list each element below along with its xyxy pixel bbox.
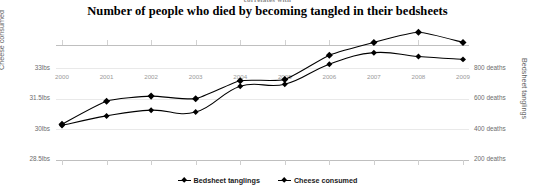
- series-line: [62, 32, 463, 124]
- data-point-marker[interactable]: [371, 50, 377, 56]
- x-axis-tick: [107, 160, 108, 165]
- data-point-marker[interactable]: [193, 109, 199, 115]
- x-axis-tick: [240, 160, 241, 165]
- data-point-marker[interactable]: [148, 107, 154, 113]
- data-point-marker[interactable]: [326, 52, 333, 59]
- legend-item-cheese-consumed[interactable]: Cheese consumed: [278, 176, 358, 185]
- x-axis-tick: [329, 160, 330, 165]
- x-axis-tick: [374, 160, 375, 165]
- data-point-marker[interactable]: [192, 95, 199, 102]
- data-point-marker[interactable]: [282, 81, 288, 87]
- data-point-marker[interactable]: [103, 98, 110, 105]
- y-axis-left-tick-label: 33lbs: [10, 64, 50, 71]
- x-axis-tick: [151, 160, 152, 165]
- diamond-marker-icon: [278, 177, 291, 184]
- data-point-marker[interactable]: [237, 83, 243, 89]
- data-point-marker[interactable]: [104, 113, 110, 119]
- plot-area: 2000200120022003200420052006200720082009…: [56, 45, 469, 160]
- series-line: [62, 52, 463, 125]
- diamond-marker-icon: [178, 177, 191, 184]
- x-axis-tick: [285, 160, 286, 165]
- y-axis-left-tick-label: 30lbs: [10, 125, 50, 132]
- chart-title: Number of people who died by becoming ta…: [0, 4, 535, 19]
- data-point-marker[interactable]: [148, 93, 155, 100]
- x-axis-tick: [196, 160, 197, 165]
- chart-container: correlates with Number of people who die…: [0, 0, 535, 191]
- x-axis-tick: [62, 160, 63, 165]
- chart-supertitle: correlates with: [0, 0, 535, 2]
- data-point-marker[interactable]: [415, 29, 422, 36]
- y-axis-right-title: Bedsheet tanglings: [520, 58, 529, 119]
- data-point-marker[interactable]: [460, 56, 466, 62]
- y-axis-right-tick-label: 600 deaths: [474, 94, 520, 101]
- chart-legend: Bedsheet tanglings Cheese consumed: [0, 176, 535, 185]
- y-axis-right-tick-label: 200 deaths: [474, 155, 520, 162]
- y-axis-left-tick-label: 28.5lbs: [10, 155, 50, 162]
- series-lines: [56, 45, 469, 160]
- data-point-marker[interactable]: [326, 61, 332, 67]
- data-point-marker[interactable]: [370, 39, 377, 46]
- x-axis-bottom-line: [56, 160, 469, 161]
- data-point-marker[interactable]: [415, 54, 421, 60]
- y-axis-right-tick-label: 400 deaths: [474, 125, 520, 132]
- legend-label: Cheese consumed: [294, 176, 358, 185]
- legend-item-bedsheet-tanglings[interactable]: Bedsheet tanglings: [178, 176, 260, 185]
- legend-label: Bedsheet tanglings: [194, 176, 260, 185]
- data-point-marker[interactable]: [459, 39, 466, 46]
- x-axis-tick: [463, 160, 464, 165]
- y-axis-left-tick-label: 31.5lbs: [10, 94, 50, 101]
- x-axis-tick: [418, 160, 419, 165]
- y-axis-left-title: Cheese consumed: [0, 10, 6, 70]
- y-axis-right-tick-label: 800 deaths: [474, 64, 520, 71]
